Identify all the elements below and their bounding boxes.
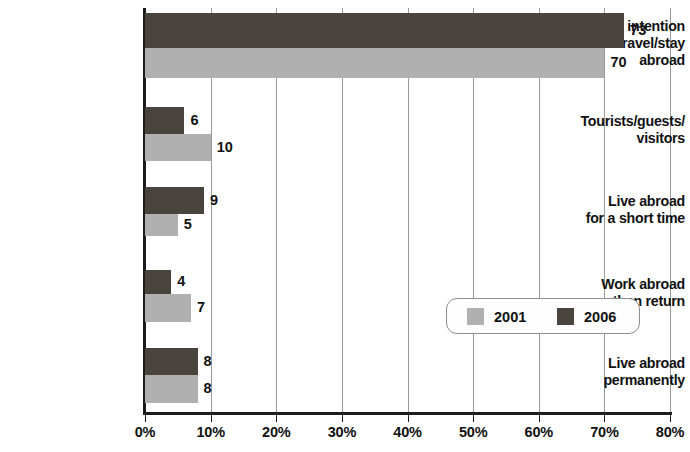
legend-label-2001: 2001 — [494, 309, 526, 325]
bar-2001 — [145, 294, 191, 322]
bar-2006 — [145, 348, 198, 375]
x-tick-label-10%: 10% — [181, 424, 241, 440]
legend-item-2001[interactable]: 2001 — [467, 308, 526, 325]
category-label-line: visitors — [547, 130, 685, 147]
category-label-line: for a short time — [547, 210, 685, 227]
bar-2006 — [145, 187, 204, 214]
bar-value-2001: 8 — [204, 380, 212, 396]
bar-2006 — [145, 13, 624, 48]
x-tick-label-60%: 60% — [509, 424, 569, 440]
category-label: Live abroadpermanently — [547, 355, 690, 389]
tick-10% — [211, 415, 212, 422]
bar-value-2006: 73 — [630, 22, 646, 38]
tick-80% — [670, 415, 671, 422]
bar-2001 — [145, 134, 211, 161]
x-tick-label-50%: 50% — [443, 424, 503, 440]
bar-value-2001: 70 — [610, 54, 626, 70]
chart-legend: 2001 2006 — [446, 298, 640, 334]
tick-70% — [604, 415, 605, 422]
x-tick-label-20%: 20% — [246, 424, 306, 440]
x-tick-label-0%: 0% — [115, 424, 175, 440]
category-label: Live abroadfor a short time — [547, 193, 690, 227]
bar-value-2001: 7 — [197, 299, 205, 315]
category-label-line: Tourists/guests/ — [547, 113, 685, 130]
tick-20% — [276, 415, 277, 422]
legend-swatch-2006-icon — [557, 308, 574, 325]
legend-swatch-2001-icon — [467, 308, 484, 325]
legend-item-2006[interactable]: 2006 — [557, 308, 616, 325]
bar-value-2006: 9 — [210, 192, 218, 208]
x-axis-line — [143, 412, 672, 415]
x-tick-label-40%: 40% — [378, 424, 438, 440]
bar-2001 — [145, 214, 178, 236]
bar-chart: 0%10%20%30%40%50%60%70%80% No intentiont… — [0, 0, 690, 452]
tick-0% — [145, 415, 146, 422]
bar-value-2001: 10 — [217, 139, 233, 155]
category-label-line: permanently — [547, 372, 685, 389]
category-label-line: Work abroad — [547, 276, 685, 293]
bar-value-2001: 5 — [184, 216, 192, 232]
tick-30% — [342, 415, 343, 422]
bar-value-2006: 6 — [190, 112, 198, 128]
bar-value-2006: 8 — [204, 353, 212, 369]
x-tick-label-30%: 30% — [312, 424, 372, 440]
bar-2001 — [145, 48, 604, 78]
x-tick-label-80%: 80% — [640, 424, 690, 440]
category-label-line: Live abroad — [547, 355, 685, 372]
tick-50% — [473, 415, 474, 422]
tick-60% — [539, 415, 540, 422]
category-label-line: Live abroad — [547, 193, 685, 210]
bar-2001 — [145, 375, 198, 403]
bar-2006 — [145, 107, 184, 134]
legend-label-2006: 2006 — [584, 309, 616, 325]
category-label: Tourists/guests/visitors — [547, 113, 690, 147]
bar-value-2006: 4 — [177, 273, 185, 289]
bar-2006 — [145, 270, 171, 294]
tick-40% — [408, 415, 409, 422]
x-tick-label-70%: 70% — [574, 424, 634, 440]
